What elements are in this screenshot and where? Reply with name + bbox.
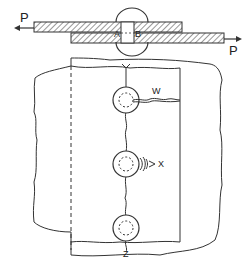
lower-plate-left-edge [33,66,71,232]
label-a: A [114,29,120,39]
arrow-left-icon [14,25,20,31]
rivet-joint-diagram: A B P P W X [0,0,251,273]
top-plate [34,22,182,32]
rivet-3 [113,215,139,241]
rivet-shank [121,22,134,43]
bearing-failure-x [140,157,155,171]
label-b: B [135,29,141,39]
label-w: W [152,86,161,96]
rivet-2 [113,151,139,177]
label-z: Z [123,249,129,259]
arrow-right-icon [236,36,242,42]
crack-w [133,98,180,100]
bottom-plate [71,33,224,43]
side-view: A B P P [14,8,242,58]
label-p-left: P [20,10,29,25]
rivet-head-bottom [116,42,148,56]
lower-plate-outline [71,58,222,256]
rivet-head-top [116,8,148,22]
label-x: X [158,159,164,169]
plan-view: W X Z [33,58,222,259]
label-p-right: P [229,43,238,58]
